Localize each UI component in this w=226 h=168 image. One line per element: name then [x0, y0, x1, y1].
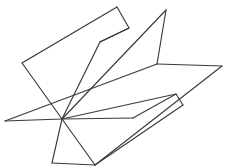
figure-canvas [0, 0, 226, 168]
wireframe-drawing [0, 0, 226, 168]
background-rect [0, 0, 226, 168]
